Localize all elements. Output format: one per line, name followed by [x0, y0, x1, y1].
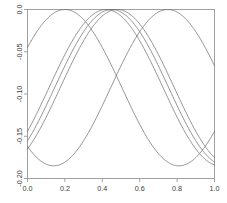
chart-figure: 0.00.20.40.60.81.0 0.0-0.05-0.10-0.15-0.…	[0, 0, 227, 203]
y-tick-label-4: -0.20	[15, 170, 24, 186]
curve-2	[28, 10, 215, 165]
x-axis-ticks	[28, 179, 215, 183]
y-axis-ticks	[24, 10, 28, 179]
y-tick-label-1: -0.05	[15, 44, 24, 60]
y-axis-tick-labels: 0.0-0.05-0.10-0.15-0.20	[15, 5, 24, 187]
line-chart-svg: 0.00.20.40.60.81.0 0.0-0.05-0.10-0.15-0.…	[0, 0, 227, 203]
y-tick-label-2: -0.10	[15, 86, 24, 102]
x-tick-label-4: 0.8	[172, 184, 182, 193]
plot-frame	[28, 10, 215, 179]
curve-5	[28, 10, 215, 166]
curve-1	[28, 10, 215, 166]
x-tick-label-2: 0.4	[97, 184, 107, 193]
curve-group	[28, 10, 215, 166]
y-tick-label-3: -0.15	[15, 128, 24, 144]
curve-4	[28, 10, 215, 158]
x-tick-label-5: 1.0	[210, 184, 220, 193]
x-tick-label-0: 0.0	[23, 184, 33, 193]
y-tick-label-0: 0.0	[15, 5, 24, 15]
x-axis-tick-labels: 0.00.20.40.60.81.0	[23, 184, 220, 193]
x-tick-label-1: 0.2	[60, 184, 70, 193]
x-tick-label-3: 0.6	[135, 184, 145, 193]
